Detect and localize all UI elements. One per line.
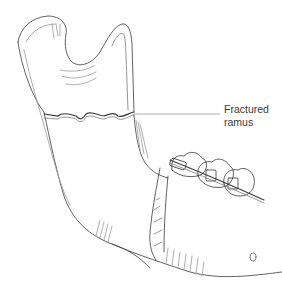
mental-foramen xyxy=(250,253,256,261)
posterior-border xyxy=(18,42,150,268)
annotation-line-1: Fractured xyxy=(224,103,269,116)
annotation-fractured-ramus: Fractured ramus xyxy=(224,103,269,129)
mandible-illustration xyxy=(0,0,282,301)
fracture-line xyxy=(44,112,134,119)
annotation-line-2: ramus xyxy=(224,116,269,129)
inferior-border xyxy=(112,244,282,277)
arch-wire xyxy=(170,160,264,200)
